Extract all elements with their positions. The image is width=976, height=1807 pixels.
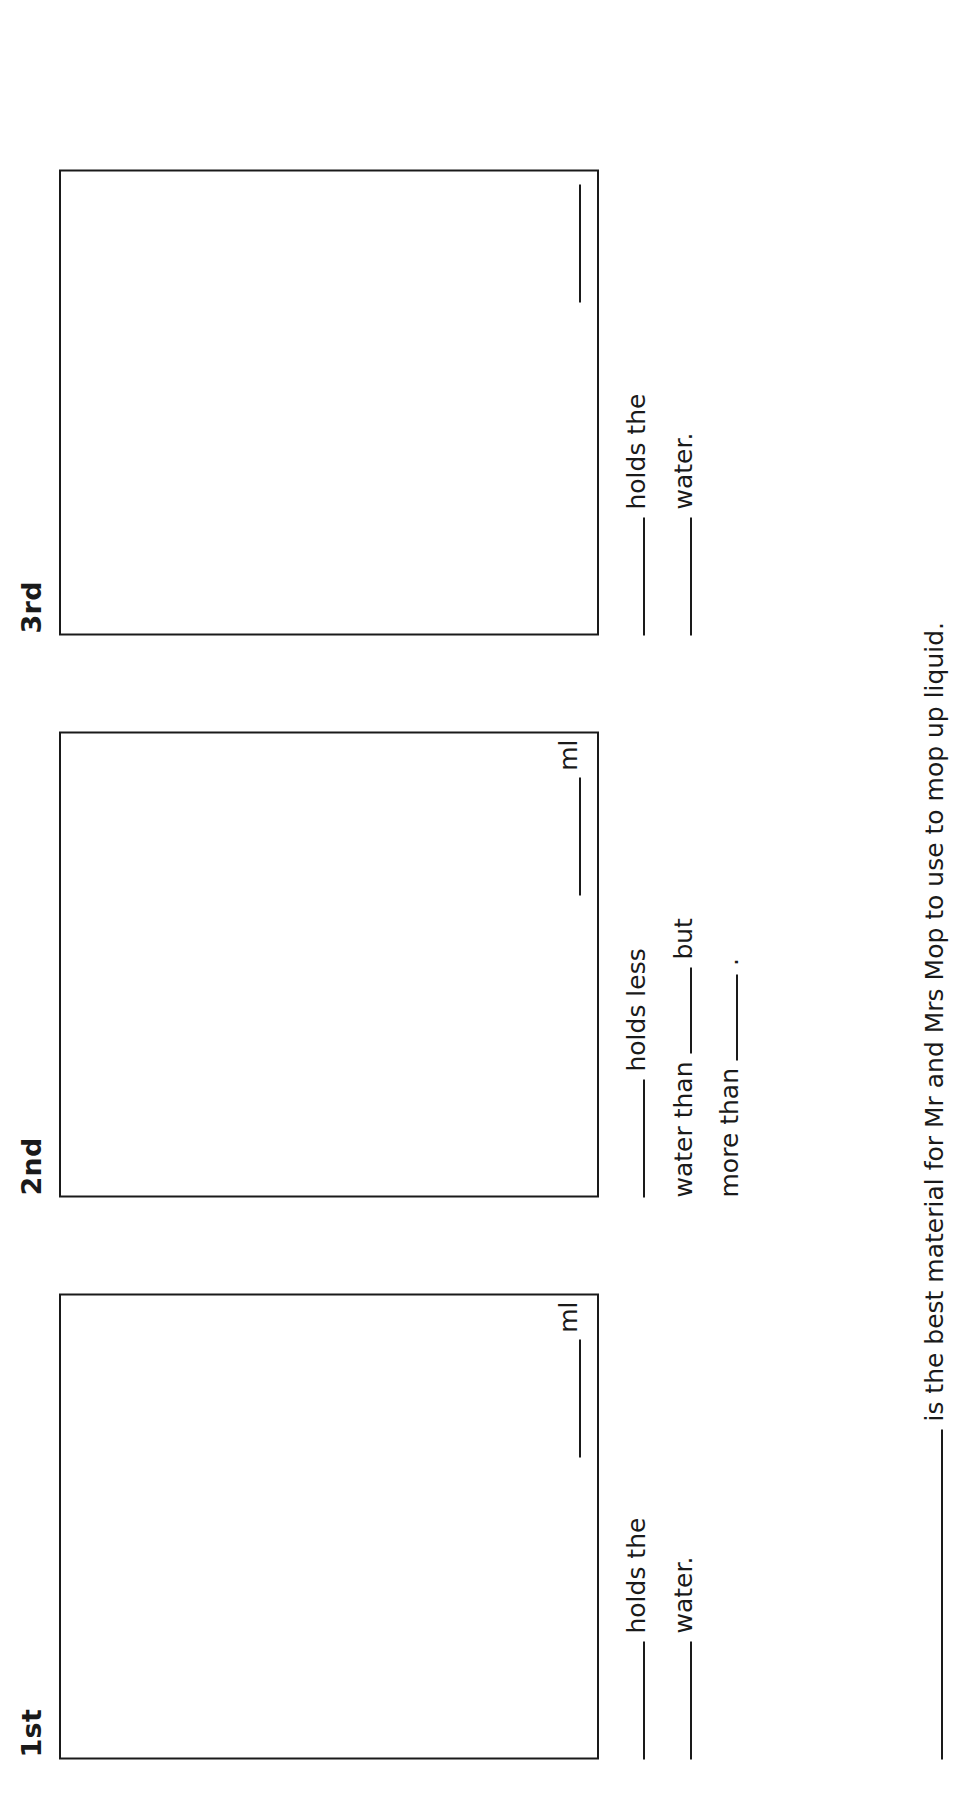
ordinal-label-1st: 1st xyxy=(18,1279,45,1757)
answer-blank[interactable] xyxy=(624,1641,645,1759)
worksheet-sheet: 1st ml holds the water. 2nd xyxy=(0,0,976,1807)
sentences-2nd: holds less water than but more than . xyxy=(617,717,751,1197)
bottom-conclusion-sentence: is the best material for Mr and Mrs Mop … xyxy=(917,59,952,1759)
answer-blank[interactable] xyxy=(717,974,738,1060)
sentence-line-2nd-c: more than . xyxy=(710,717,751,1197)
measurement-blank-3rd[interactable] xyxy=(559,184,581,302)
drawing-box-3rd[interactable] xyxy=(59,169,599,635)
drawing-box-2nd[interactable] xyxy=(59,731,599,1197)
answer-blank[interactable] xyxy=(671,517,692,635)
ordinal-label-2nd: 2nd xyxy=(18,717,45,1195)
page-rotation-stage: 1st ml holds the water. 2nd xyxy=(0,0,976,1807)
measurement-blank-1st[interactable] xyxy=(559,1339,581,1457)
sentence-text: holds less xyxy=(622,948,651,1079)
sentence-text: holds the xyxy=(622,393,651,517)
measurement-unit-2nd: ml xyxy=(556,739,581,770)
sentence-line-1st-a: holds the xyxy=(617,1279,658,1759)
sentence-line-2nd-b: water than but xyxy=(664,717,705,1197)
sentence-line-3rd-b: water. xyxy=(664,155,705,635)
answer-blank[interactable] xyxy=(671,967,692,1053)
sentence-text: water than xyxy=(669,1053,698,1197)
sentence-text: but xyxy=(669,918,698,967)
worksheet-column-3rd: 3rd holds the water. xyxy=(18,155,710,635)
sentence-line-1st-b: water. xyxy=(664,1279,705,1759)
answer-blank[interactable] xyxy=(624,1079,645,1197)
measurement-row-1st: ml xyxy=(547,1301,581,1759)
answer-blank-conclusion[interactable] xyxy=(922,1429,943,1759)
sentence-line-2nd-a: holds less xyxy=(617,717,658,1197)
measurement-blank-2nd[interactable] xyxy=(559,777,581,895)
sentence-text: water. xyxy=(669,432,698,517)
measurement-row-3rd xyxy=(547,177,581,635)
sentence-text: more than xyxy=(715,1060,744,1197)
measurement-unit-1st: ml xyxy=(556,1301,581,1332)
sentence-line-3rd-a: holds the xyxy=(617,155,658,635)
answer-blank[interactable] xyxy=(671,1641,692,1759)
measurement-row-2nd: ml xyxy=(547,739,581,1197)
sentences-1st: holds the water. xyxy=(617,1279,704,1759)
sentence-text: . xyxy=(715,958,744,974)
drawing-box-1st[interactable] xyxy=(59,1293,599,1759)
sentence-text: holds the xyxy=(622,1517,651,1641)
answer-blank[interactable] xyxy=(624,517,645,635)
sentence-text: water. xyxy=(669,1556,698,1641)
worksheet-column-2nd: 2nd ml holds less water than but more th… xyxy=(18,717,757,1197)
ordinal-label-3rd: 3rd xyxy=(18,155,45,633)
bottom-sentence-text: is the best material for Mr and Mrs Mop … xyxy=(920,621,949,1429)
sentences-3rd: holds the water. xyxy=(617,155,704,635)
worksheet-column-1st: 1st ml holds the water. xyxy=(18,1279,710,1759)
